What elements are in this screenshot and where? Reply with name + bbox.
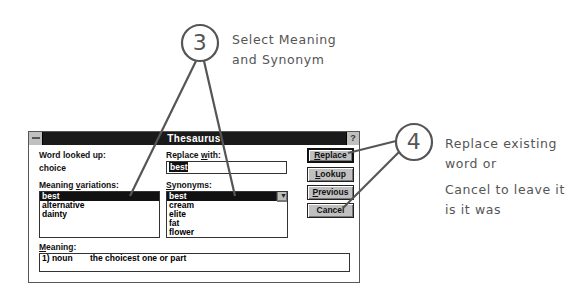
step3-text: Select Meaning and Synonym bbox=[232, 30, 336, 70]
step4-text: Replace existing word or Cancel to leave… bbox=[445, 134, 565, 220]
step4-number: 4 bbox=[405, 128, 423, 156]
step3-number: 3 bbox=[191, 29, 209, 57]
